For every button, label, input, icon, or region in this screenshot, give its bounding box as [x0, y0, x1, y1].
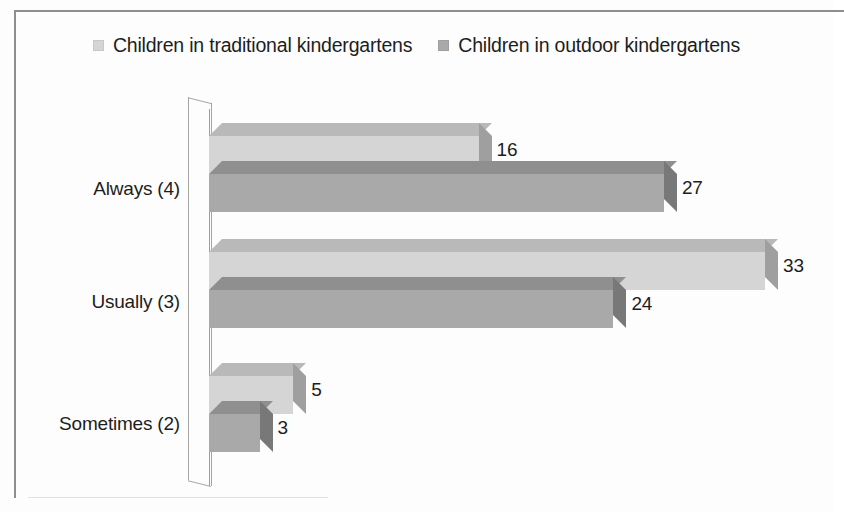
- category-label-always: Always (4): [20, 178, 180, 200]
- bar-front-face: [209, 414, 260, 452]
- data-label-sometimes-2-traditional: 5: [311, 379, 321, 401]
- bar-side-face: [664, 161, 677, 212]
- bar-front-face: [209, 174, 664, 212]
- bar-side-face: [765, 239, 778, 290]
- bar-side-face: [293, 363, 306, 414]
- data-label-always-4-outdoor: 27: [682, 177, 703, 199]
- data-label-sometimes-2-outdoor: 3: [278, 417, 288, 439]
- bar-sometimes-2-outdoor: [209, 414, 260, 452]
- bar-top-face: [209, 239, 778, 252]
- data-label-usually-3-outdoor: 24: [631, 293, 652, 315]
- bar-top-face: [209, 363, 306, 376]
- bar-top-face: [209, 161, 677, 174]
- bar-usually-3-outdoor: [209, 290, 613, 328]
- data-label-usually-3-traditional: 33: [783, 255, 804, 277]
- data-label-always-4-traditional: 16: [497, 139, 518, 161]
- category-label-sometimes: Sometimes (2): [20, 413, 180, 435]
- bar-front-face: [209, 290, 613, 328]
- category-label-usually: Usually (3): [20, 291, 180, 313]
- bar-top-face: [209, 123, 492, 136]
- bar-top-face: [209, 277, 626, 290]
- bar-always-4-outdoor: [209, 174, 664, 212]
